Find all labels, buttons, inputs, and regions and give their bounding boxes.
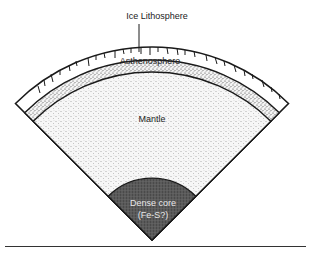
- mantle-label: Mantle: [138, 114, 165, 124]
- ice-lithosphere-label: Ice Lithosphere: [126, 11, 188, 21]
- interior-diagram: Ice Lithosphere Asthenosphere Mantle Den…: [0, 0, 311, 259]
- dense-core-label: Dense core: [130, 198, 176, 208]
- asthenosphere-label: Asthenosphere: [120, 56, 181, 66]
- core-composition-label: (Fe-S?): [138, 210, 169, 220]
